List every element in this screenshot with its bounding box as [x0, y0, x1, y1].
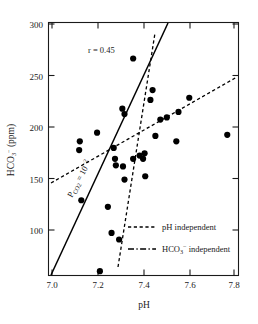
data-point: [121, 176, 127, 182]
data-point: [186, 95, 192, 101]
legend-label-ph-independent: pH independent: [162, 222, 217, 232]
data-point: [108, 230, 114, 236]
data-point: [130, 156, 136, 162]
data-point: [141, 150, 147, 156]
data-point: [147, 97, 153, 103]
chart-canvas: 7.0 7.2 7.4 7.6 7.8 100 150 200 250 300 …: [0, 0, 258, 324]
data-point: [224, 132, 230, 138]
data-point: [149, 87, 155, 93]
data-point: [112, 156, 118, 162]
data-point: [97, 268, 103, 274]
x-tick-label: 7.4: [138, 280, 150, 290]
data-point: [173, 138, 179, 144]
data-point: [111, 145, 117, 151]
hco3-independent-line: [118, 33, 155, 267]
data-point: [94, 130, 100, 136]
y-tick-label: 150: [30, 175, 44, 185]
data-point: [175, 109, 181, 115]
legend: pH independent HCO3− independent: [128, 222, 231, 255]
x-tick-labels: 7.0 7.2 7.4 7.6 7.8: [46, 280, 240, 290]
y-tick-label: 200: [30, 123, 44, 133]
x-tick-label: 7.6: [184, 280, 196, 290]
x-axis-title: pH: [138, 300, 150, 310]
data-point: [164, 114, 170, 120]
legend-hco3-base: HCO: [162, 244, 180, 254]
x-tick-label: 7.8: [228, 280, 240, 290]
data-point: [142, 173, 148, 179]
x-tick-label: 7.2: [92, 280, 103, 290]
data-point: [76, 147, 82, 153]
x-tick-label: 7.0: [46, 280, 58, 290]
y-tick-label: 100: [30, 226, 44, 236]
correlation-annotation: r = 0.45: [88, 45, 115, 55]
data-point: [119, 106, 125, 112]
data-point: [113, 162, 119, 168]
data-point: [77, 138, 83, 144]
y-tick-label: 300: [30, 20, 44, 30]
data-point: [152, 133, 158, 139]
data-point: [116, 236, 122, 242]
data-points: [76, 55, 230, 274]
legend-label-hco3-independent: HCO3− independent: [162, 243, 231, 255]
y-tick-label: 250: [30, 72, 44, 82]
scatter-plot-figure: 7.0 7.2 7.4 7.6 7.8 100 150 200 250 300 …: [0, 0, 258, 324]
pco2-label-rest: = 10: [73, 164, 90, 184]
y-axis-title-units: (ppm): [6, 124, 17, 150]
y-tick-labels: 100 150 200 250 300: [30, 20, 44, 236]
y-axis-title-base: HCO: [6, 156, 16, 176]
data-point: [140, 156, 146, 162]
data-point: [78, 197, 84, 203]
y-axis-title: HCO3− (ppm): [5, 124, 17, 176]
data-point: [105, 204, 111, 210]
pco2-solid-line: [51, 23, 168, 275]
data-point: [121, 111, 127, 117]
svg-text:HCO3− (ppm): HCO3− (ppm): [5, 124, 17, 176]
y-axis-ticks: [49, 24, 239, 230]
legend-hco3-rest: independent: [187, 244, 231, 254]
data-point: [157, 116, 163, 122]
data-point: [120, 163, 126, 169]
data-point: [130, 55, 136, 61]
